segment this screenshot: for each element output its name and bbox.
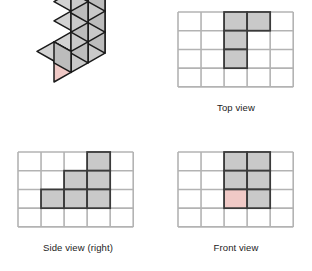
top-view-grid (176, 10, 298, 92)
panel-side-view: Side view (right) (8, 150, 148, 262)
side-view-grid (16, 150, 138, 232)
top-view-cell (224, 49, 247, 68)
front-view-cell (247, 152, 270, 171)
top-view-cell (224, 12, 247, 31)
panel-top-view: Top view (168, 10, 304, 122)
front-view-cell-highlighted (224, 189, 247, 208)
top-view-cell (247, 12, 270, 31)
front-view-cell (247, 171, 270, 190)
front-view-cell (224, 152, 247, 171)
side-view-caption: Side view (right) (8, 242, 148, 253)
side-view-cell (64, 189, 87, 208)
front-view-cell (224, 171, 247, 190)
front-view-grid (176, 150, 298, 232)
side-view-cell (87, 152, 110, 171)
panel-front-view: Front view (168, 150, 304, 262)
side-view-cell (87, 189, 110, 208)
front-view-cell (247, 189, 270, 208)
top-view-cell (224, 31, 247, 50)
front-view-caption: Front view (168, 242, 304, 253)
side-view-cell (41, 189, 64, 208)
side-view-cell (87, 171, 110, 190)
top-view-caption: Top view (168, 102, 304, 113)
isometric-solid-drawing (10, 4, 156, 120)
panel-isometric (10, 4, 156, 120)
side-view-cell (64, 171, 87, 190)
